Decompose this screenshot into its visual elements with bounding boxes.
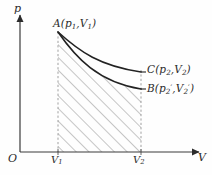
hatched-region [50, 25, 150, 160]
point-label-a: A(p1,V1) [53, 18, 96, 30]
point-label-c-mid: ,V [171, 63, 182, 75]
point-label-a-mid: ,V [76, 17, 87, 29]
point-label-b-text: B(p [147, 82, 166, 94]
point-label-a-text: A(p [53, 17, 72, 29]
pv-diagram-figure: A(p1,V1) C(p2,V2) B(p2′,V2′) p V O V1 V2 [0, 0, 212, 175]
x-tick-label-v1: V1 [51, 155, 63, 166]
point-label-c: C(p2,V2) [147, 64, 191, 76]
point-label-a-close: ) [92, 17, 96, 29]
point-label-c-text: C(p [147, 63, 166, 75]
y-axis-label: p [14, 3, 21, 14]
point-label-b: B(p2′,V2′) [147, 83, 194, 95]
origin-label: O [8, 153, 17, 164]
point-label-b-mid: ,V [172, 82, 183, 94]
x-tick-label-v2: V2 [133, 155, 145, 166]
point-label-c-close: ) [187, 63, 191, 75]
point-label-b-close: ) [190, 82, 194, 94]
x-tick-label-v2-sub: 2 [140, 158, 144, 166]
x-axis-label: V [198, 152, 206, 163]
x-tick-label-v1-sub: 1 [58, 158, 62, 166]
